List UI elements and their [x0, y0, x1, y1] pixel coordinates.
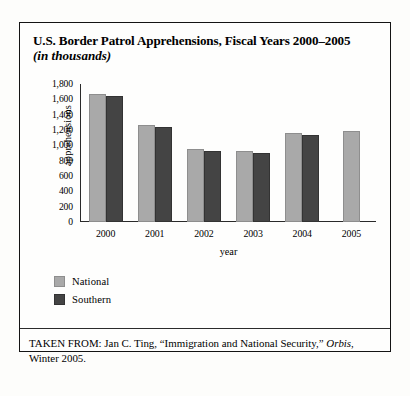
bar-national-2005 [343, 131, 360, 222]
bar-national-2001 [138, 125, 155, 222]
legend-item-southern: Southern [54, 292, 111, 307]
bar-pair [179, 84, 228, 222]
legend-swatch-national [54, 276, 65, 287]
y-tick-label: 800 [59, 156, 73, 166]
bar-groups [81, 84, 376, 222]
x-tick-label: 2002 [179, 228, 228, 239]
y-tick-label: 1,800 [52, 79, 73, 89]
y-tick-label: 200 [59, 202, 73, 212]
y-tick-label: 1,000 [52, 141, 73, 151]
x-axis-ticks: 200020012002200320042005 [81, 228, 376, 239]
x-axis-title: year [81, 246, 376, 257]
x-tick-label: 2000 [81, 228, 130, 239]
bar-pair [327, 84, 376, 222]
bar-national-2003 [236, 151, 253, 222]
bar-group-2005 [327, 84, 376, 222]
y-axis-ticks: 1,8001,6001,4001,2001,0008006004002000 [33, 78, 77, 222]
chart-legend: NationalSouthern [54, 274, 111, 310]
bar-national-2004 [285, 133, 302, 222]
legend-swatch-southern [54, 294, 65, 305]
source-journal: Orbis [326, 337, 351, 349]
y-tick-label: 1,400 [52, 110, 73, 120]
figure-container: U.S. Border Patrol Apprehensions, Fiscal… [0, 0, 410, 396]
x-tick-label: 2004 [278, 228, 327, 239]
y-tick-label: 0 [68, 217, 73, 227]
legend-label: National [72, 276, 109, 287]
bar-group-2003 [229, 84, 278, 222]
bar-southern-2003 [253, 153, 270, 222]
bar-pair [81, 84, 130, 222]
bar-group-2002 [179, 84, 228, 222]
legend-item-national: National [54, 274, 111, 289]
bar-group-2001 [130, 84, 179, 222]
bar-chart: apprehensions 1,8001,6001,4001,2001,0008… [33, 78, 383, 258]
source-divider [20, 328, 390, 329]
bar-national-2002 [187, 149, 204, 222]
x-tick-label: 2005 [327, 228, 376, 239]
x-tick-label: 2001 [130, 228, 179, 239]
bar-group-2000 [81, 84, 130, 222]
figure-title: U.S. Border Patrol Apprehensions, Fiscal… [33, 33, 381, 64]
x-tick-label: 2003 [229, 228, 278, 239]
bar-southern-2002 [204, 151, 221, 222]
source-attribution: TAKEN FROM: Jan C. Ting, “Immigration an… [29, 336, 379, 365]
source-prefix: TAKEN FROM: Jan C. Ting, “Immigration an… [29, 337, 324, 349]
bar-group-2004 [278, 84, 327, 222]
title-subtitle: (in thousands) [33, 48, 381, 64]
bar-pair [278, 84, 327, 222]
bar-pair [229, 84, 278, 222]
title-primary: U.S. Border Patrol Apprehensions, Fiscal… [33, 33, 381, 48]
bar-national-2000 [89, 94, 106, 222]
bar-southern-2004 [302, 135, 319, 222]
legend-label: Southern [72, 294, 111, 305]
y-tick-label: 400 [59, 187, 73, 197]
bar-southern-2000 [106, 96, 123, 222]
bar-southern-2001 [155, 127, 172, 222]
y-tick-label: 1,600 [52, 95, 73, 105]
bar-pair [130, 84, 179, 222]
y-tick-label: 1,200 [52, 125, 73, 135]
y-tick-label: 600 [59, 171, 73, 181]
